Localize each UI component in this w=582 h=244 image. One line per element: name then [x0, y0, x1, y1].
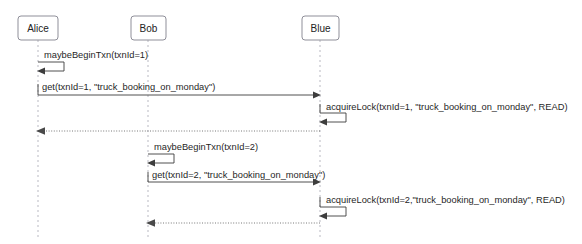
message-1-label: maybeBeginTxn(txnId=1) — [44, 50, 148, 60]
message-6-get-bob-to-blue[interactable]: get(txnId=2, "truck_booking_on_monday") — [148, 170, 325, 185]
message-7-label: acquireLock(txnId=2,"truck_booking_on_mo… — [326, 195, 565, 205]
message-4-return-blue-to-alice[interactable] — [36, 127, 320, 135]
message-1-maybebegintxn-alice[interactable]: maybeBeginTxn(txnId=1) — [37, 50, 148, 74]
sequence-diagram-svg: Alice Bob Blue maybeBeginTxn(txnId=1) ge… — [0, 0, 582, 244]
message-4-arrowhead — [36, 127, 45, 135]
message-5-label: maybeBeginTxn(txnId=2) — [154, 142, 258, 152]
participant-alice[interactable]: Alice — [18, 16, 58, 40]
participant-blue[interactable]: Blue — [302, 16, 339, 40]
participant-label-blue: Blue — [310, 23, 330, 34]
message-7-arrowhead — [319, 213, 327, 220]
message-8-arrowhead — [146, 219, 155, 227]
sequence-diagram-canvas: Alice Bob Blue maybeBeginTxn(txnId=1) ge… — [0, 0, 582, 244]
message-2-arrowhead — [313, 92, 321, 99]
participant-label-alice: Alice — [27, 23, 49, 34]
message-7-acquirelock-blue[interactable]: acquireLock(txnId=2,"truck_booking_on_mo… — [319, 195, 565, 219]
message-3-label: acquireLock(txnId=1, "truck_booking_on_m… — [326, 102, 567, 112]
message-2-label: get(txnId=1, "truck_booking_on_monday") — [42, 82, 215, 92]
participant-bob[interactable]: Bob — [131, 16, 166, 40]
message-6-label: get(txnId=2, "truck_booking_on_monday") — [152, 170, 325, 180]
message-3-acquirelock-blue[interactable]: acquireLock(txnId=1, "truck_booking_on_m… — [319, 102, 567, 125]
message-5-maybebegintxn-bob[interactable]: maybeBeginTxn(txnId=2) — [147, 142, 258, 166]
message-1-arrowhead — [37, 68, 45, 75]
message-3-arrowhead — [319, 119, 327, 126]
lifelines-group — [38, 40, 320, 239]
message-2-get-alice-to-blue[interactable]: get(txnId=1, "truck_booking_on_monday") — [38, 82, 321, 98]
participant-label-bob: Bob — [140, 23, 158, 34]
message-8-return-blue-to-bob[interactable] — [146, 219, 320, 227]
